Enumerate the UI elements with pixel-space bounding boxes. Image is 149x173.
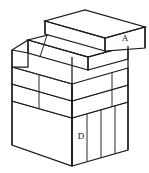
tier-two-skirt-top-edge <box>12 40 28 50</box>
block-stack-drawing: D C B <box>0 0 149 173</box>
block-a-label: A <box>122 33 129 43</box>
block-stack-figure: D C B <box>0 0 149 173</box>
block-d-label: D <box>78 131 85 141</box>
